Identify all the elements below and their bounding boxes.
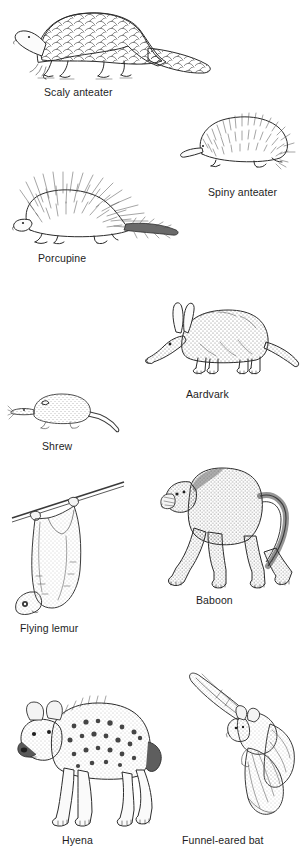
illustration-plate: Scaly anteater (0, 0, 307, 863)
figure-shrew (8, 386, 128, 434)
caption-spiny-anteater: Spiny anteater (208, 186, 277, 198)
figure-scaly-anteater (8, 4, 218, 84)
spiny-anteater-drawing (176, 108, 296, 170)
funnel-eared-bat-drawing (178, 662, 296, 828)
caption-porcupine: Porcupine (38, 252, 86, 264)
figure-hyena (8, 668, 168, 828)
caption-flying-lemur: Flying lemur (20, 622, 78, 634)
caption-funnel-eared-bat: Funnel-eared bat (182, 834, 264, 846)
scaly-anteater-drawing (8, 4, 218, 84)
figure-aardvark (140, 296, 300, 374)
figure-funnel-eared-bat (178, 662, 296, 828)
caption-scaly-anteater: Scaly anteater (44, 86, 113, 98)
shrew-drawing (8, 386, 128, 434)
caption-shrew: Shrew (42, 440, 72, 452)
figure-porcupine (8, 172, 183, 248)
figure-flying-lemur (8, 466, 128, 616)
hyena-drawing (8, 668, 168, 828)
caption-aardvark: Aardvark (186, 388, 229, 400)
figure-baboon (156, 452, 296, 592)
aardvark-drawing (140, 296, 300, 374)
caption-baboon: Baboon (196, 594, 233, 606)
flying-lemur-drawing (8, 466, 128, 616)
baboon-drawing (156, 452, 296, 592)
figure-spiny-anteater (176, 108, 296, 170)
caption-hyena: Hyena (62, 834, 93, 846)
porcupine-drawing (8, 172, 183, 248)
